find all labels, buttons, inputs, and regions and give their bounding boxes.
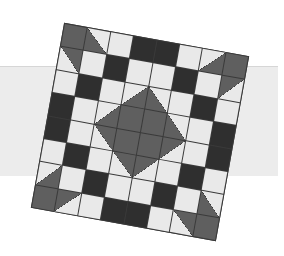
gray-square — [32, 185, 58, 211]
dark-square — [209, 121, 235, 147]
light-square — [182, 140, 208, 166]
light-square — [194, 71, 220, 97]
light-square — [78, 193, 104, 219]
half-square-triangle — [170, 209, 196, 235]
half-square-triangle — [109, 151, 135, 177]
light-square — [86, 147, 112, 173]
light-square — [59, 166, 85, 192]
light-square — [98, 78, 124, 104]
light-square — [40, 139, 66, 165]
gray-square — [140, 109, 166, 135]
gray-square — [136, 132, 162, 158]
dark-square — [48, 93, 74, 119]
dark-square — [124, 201, 150, 227]
half-square-triangle — [94, 101, 120, 127]
dark-square — [205, 144, 231, 170]
half-square-triangle — [132, 155, 158, 181]
gray-square — [117, 105, 143, 131]
gray-square — [113, 128, 139, 154]
dark-square — [152, 40, 178, 66]
quilt-block — [30, 22, 248, 240]
half-square-triangle — [121, 82, 147, 108]
light-square — [155, 159, 181, 185]
half-square-triangle — [163, 113, 189, 139]
light-square — [128, 178, 154, 204]
dark-square — [44, 116, 70, 142]
half-square-triangle — [159, 136, 185, 162]
light-square — [176, 44, 202, 70]
light-square — [105, 174, 131, 200]
light-square — [67, 120, 93, 146]
light-square — [79, 51, 105, 77]
dark-square — [63, 143, 89, 169]
dark-square — [101, 197, 127, 223]
light-square — [148, 63, 174, 89]
half-square-triangle — [217, 75, 243, 101]
gray-square — [222, 52, 248, 78]
dark-square — [75, 74, 101, 100]
gray-square — [60, 24, 86, 50]
half-square-triangle — [56, 47, 82, 73]
half-square-triangle — [144, 86, 170, 112]
half-square-triangle — [90, 124, 116, 150]
half-square-triangle — [36, 162, 62, 188]
half-square-triangle — [197, 191, 223, 217]
light-square — [201, 168, 227, 194]
half-square-triangle — [55, 189, 81, 215]
light-square — [213, 98, 239, 124]
light-square — [106, 32, 132, 58]
dark-square — [171, 67, 197, 93]
light-square — [125, 59, 151, 85]
dark-square — [190, 94, 216, 120]
gray-square — [193, 214, 219, 240]
dark-square — [151, 182, 177, 208]
dark-square — [129, 36, 155, 62]
light-square — [174, 186, 200, 212]
light-square — [52, 70, 78, 96]
light-square — [167, 90, 193, 116]
dark-square — [178, 163, 204, 189]
light-square — [147, 205, 173, 231]
half-square-triangle — [199, 48, 225, 74]
light-square — [71, 97, 97, 123]
light-square — [186, 117, 212, 143]
dark-square — [82, 170, 108, 196]
half-square-triangle — [83, 28, 109, 54]
dark-square — [102, 55, 128, 81]
